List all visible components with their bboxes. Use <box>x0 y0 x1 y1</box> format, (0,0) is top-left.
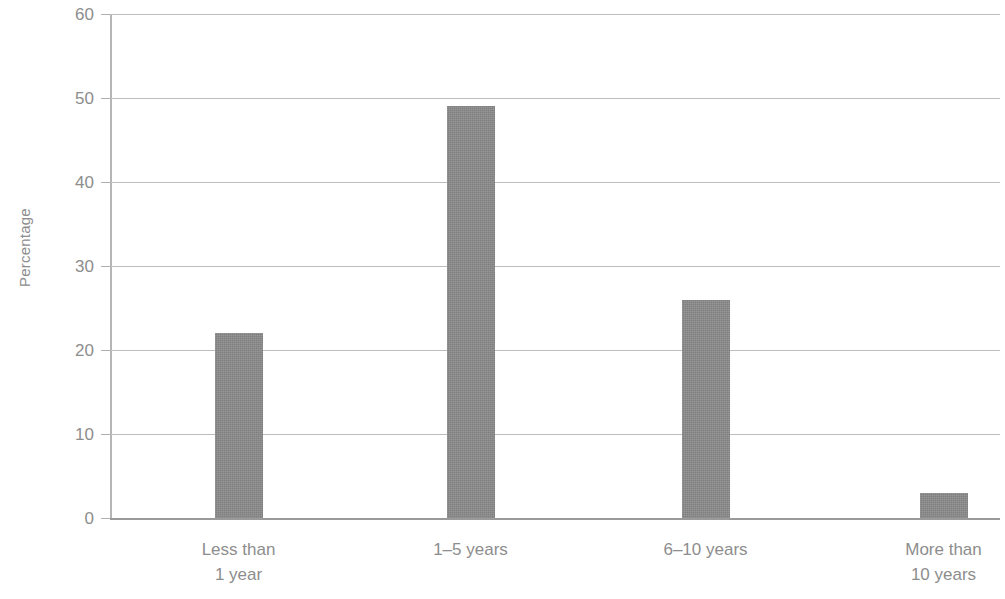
x-axis-label-line1: Less than <box>202 540 276 559</box>
y-axis-title: Percentage <box>16 188 33 308</box>
y-axis-tick <box>101 518 110 519</box>
bar-chart: Percentage 0102030405060 Less than1 year… <box>0 0 1005 599</box>
y-axis-tick-label: 50 <box>75 90 94 107</box>
gridline <box>110 182 1000 183</box>
bar <box>447 106 495 518</box>
y-axis-tick-label: 60 <box>75 6 94 23</box>
y-axis-tick <box>101 434 110 435</box>
y-axis-tick-label: 20 <box>75 342 94 359</box>
x-axis-label: Less than1 year <box>129 537 349 587</box>
y-axis-tick <box>101 266 110 267</box>
bar <box>682 300 730 518</box>
gridline <box>110 266 1000 267</box>
x-axis-label-line1: 6–10 years <box>663 540 747 559</box>
y-axis-tick-label: 0 <box>85 510 94 527</box>
x-axis-label: More than10 years <box>834 537 1005 587</box>
y-axis-tick-label: 30 <box>75 258 94 275</box>
x-axis-label: 1–5 years <box>361 537 581 562</box>
bar <box>215 333 263 518</box>
y-axis-tick <box>101 98 110 99</box>
y-axis-tick-label: 40 <box>75 174 94 191</box>
y-axis-tick <box>101 182 110 183</box>
x-axis-label: 6–10 years <box>596 537 816 562</box>
gridline <box>110 98 1000 99</box>
y-axis-tick-label: 10 <box>75 426 94 443</box>
x-axis-baseline <box>110 518 1000 520</box>
x-axis-label-line2: 1 year <box>129 562 349 587</box>
x-axis-label-line2: 10 years <box>834 562 1005 587</box>
plot-area: 0102030405060 <box>110 14 1000 518</box>
y-axis-tick <box>101 350 110 351</box>
bar <box>920 493 968 518</box>
y-axis-tick <box>101 14 110 15</box>
gridline <box>110 14 1000 15</box>
x-axis-label-line1: More than <box>905 540 982 559</box>
x-axis-label-line1: 1–5 years <box>433 540 508 559</box>
